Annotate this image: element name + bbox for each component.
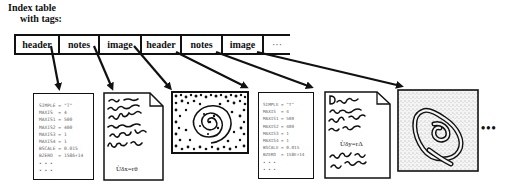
- more-documents-ellipsis: •••: [481, 121, 497, 136]
- image-document-2: [0, 0, 508, 187]
